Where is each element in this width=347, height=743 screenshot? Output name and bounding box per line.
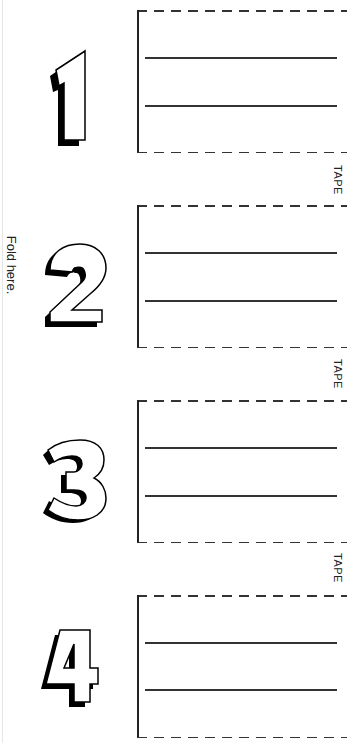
number-4-graphic <box>44 628 124 718</box>
writing-line[interactable] <box>145 105 337 107</box>
numeral-3-icon <box>42 438 122 528</box>
answer-box-4 <box>137 595 347 738</box>
writing-line[interactable] <box>145 300 337 302</box>
writing-line[interactable] <box>145 642 337 644</box>
writing-line[interactable] <box>145 447 337 449</box>
cut-line-bottom <box>137 542 347 544</box>
writing-line[interactable] <box>145 252 337 254</box>
number-3-graphic <box>42 438 122 528</box>
numeral-1-icon <box>40 45 120 135</box>
numeral-4-icon <box>44 628 124 718</box>
tape-label: TAPE <box>332 359 344 389</box>
cut-line-bottom <box>137 737 347 739</box>
cut-line-top <box>137 400 347 402</box>
box-edge <box>137 400 139 543</box>
fold-here-label: Fold here. <box>4 236 19 295</box>
answer-box-1 <box>137 10 347 153</box>
box-edge <box>137 205 139 348</box>
number-1-graphic <box>40 45 120 135</box>
box-edge <box>137 10 139 153</box>
cut-line-bottom <box>137 347 347 349</box>
answer-box-3 <box>137 400 347 543</box>
cut-line-top <box>137 10 347 12</box>
answer-box-2 <box>137 205 347 348</box>
number-2-graphic <box>42 242 122 332</box>
writing-line[interactable] <box>145 689 337 691</box>
writing-line[interactable] <box>145 495 337 497</box>
cut-line-bottom <box>137 152 347 154</box>
cut-line-top <box>137 205 347 207</box>
fold-line <box>2 0 3 743</box>
tape-label: TAPE <box>332 165 344 195</box>
numeral-2-icon <box>42 242 122 332</box>
box-edge <box>137 595 139 738</box>
cut-line-top <box>137 595 347 597</box>
writing-line[interactable] <box>145 57 337 59</box>
tape-label: TAPE <box>332 553 344 583</box>
